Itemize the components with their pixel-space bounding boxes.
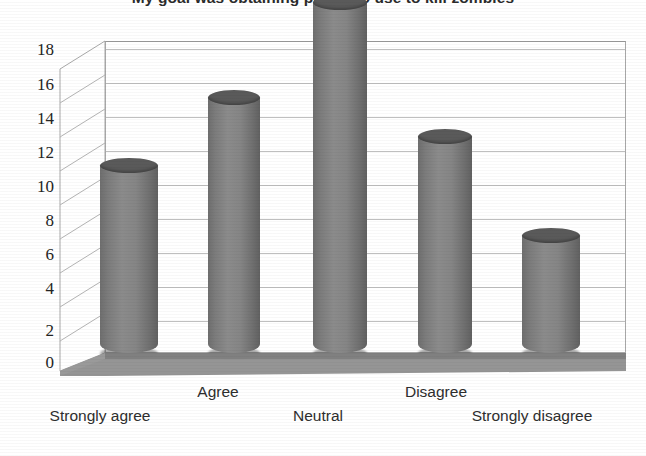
x-label-strongly-agree: Strongly agree (50, 408, 151, 424)
chart-figure: My goal was obtaining points to use to k… (0, 0, 646, 456)
x-label-neutral: Neutral (293, 408, 343, 424)
x-label-agree: Agree (197, 384, 238, 400)
x-label-strongly-disagree: Strongly disagree (472, 408, 593, 424)
x-axis-category-labels: Strongly agree Agree Neutral Disagree St… (0, 0, 646, 456)
x-label-disagree: Disagree (405, 384, 467, 400)
